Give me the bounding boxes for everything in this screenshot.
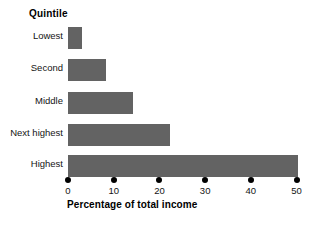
- bar-lowest: [68, 27, 82, 49]
- category-axis-labels: Lowest Second Middle Next highest Highes…: [0, 25, 63, 177]
- bar-middle: [68, 92, 133, 114]
- chart-title: Quintile: [29, 8, 68, 19]
- x-axis: 01020304050: [68, 177, 308, 199]
- x-tick-label: 50: [291, 185, 302, 196]
- x-tick-label: 30: [200, 185, 211, 196]
- category-label-lowest: Lowest: [33, 30, 63, 41]
- bar-next-highest: [68, 124, 170, 146]
- x-tick-dot: [156, 177, 162, 183]
- category-label-next-highest: Next highest: [10, 127, 63, 138]
- category-label-second: Second: [31, 62, 63, 73]
- x-tick-label: 0: [65, 185, 70, 196]
- x-tick-label: 40: [246, 185, 257, 196]
- x-tick-dot: [65, 177, 71, 183]
- x-tick-dot: [294, 177, 300, 183]
- category-label-middle: Middle: [35, 95, 63, 106]
- category-label-highest: Highest: [31, 158, 63, 169]
- x-tick-dot: [202, 177, 208, 183]
- bar-second: [68, 59, 106, 81]
- plot-area: [68, 25, 308, 177]
- x-tick-label: 10: [108, 185, 119, 196]
- x-axis-title: Percentage of total income: [67, 199, 197, 210]
- bar-highest: [68, 155, 298, 177]
- x-tick-dot: [248, 177, 254, 183]
- x-tick-dot: [111, 177, 117, 183]
- bar-chart: Quintile Lowest Second Middle Next highe…: [0, 0, 317, 226]
- x-tick-label: 20: [154, 185, 165, 196]
